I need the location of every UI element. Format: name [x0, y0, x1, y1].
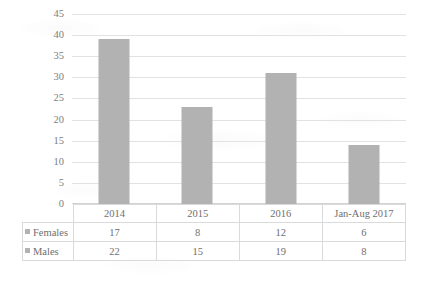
- table-header-row: 201420152016Jan-Aug 2017: [23, 205, 406, 223]
- bar-slot-2014: [72, 14, 156, 204]
- y-tick-label-10: 10: [24, 157, 64, 167]
- y-tick-label-15: 15: [24, 136, 64, 146]
- bar-2015: [182, 107, 213, 204]
- legend-item-females: Females: [23, 223, 74, 242]
- bar-slot-jan-aug-2017: [323, 14, 407, 204]
- table-cell-males-2016: 19: [239, 242, 322, 261]
- y-tick-label-25: 25: [24, 93, 64, 103]
- bar-series-total: [72, 14, 406, 204]
- table-column-header-2015: 2015: [156, 205, 239, 223]
- chart-data-table: 201420152016Jan-Aug 2017Females178126Mal…: [22, 204, 406, 261]
- table-row: Males2215198: [23, 242, 406, 261]
- table-cell-males-jan-aug-2017: 8: [322, 242, 405, 261]
- y-tick-label-20: 20: [24, 115, 64, 125]
- table-column-header-jan-aug-2017: Jan-Aug 2017: [322, 205, 405, 223]
- table-row: Females178126: [23, 223, 406, 242]
- bar-2016: [265, 73, 296, 204]
- table-cell-males-2015: 15: [156, 242, 239, 261]
- bar-slot-2016: [239, 14, 323, 204]
- legend-swatch-icon: [25, 229, 30, 234]
- table-cell-females-jan-aug-2017: 6: [322, 223, 405, 242]
- table-cell-males-2014: 22: [73, 242, 156, 261]
- bar-slot-2015: [156, 14, 240, 204]
- y-tick-label-35: 35: [24, 51, 64, 61]
- bar-jan-aug-2017: [349, 145, 380, 204]
- y-tick-label-5: 5: [24, 178, 64, 188]
- table-cell-females-2015: 8: [156, 223, 239, 242]
- table-cell-females-2016: 12: [239, 223, 322, 242]
- table-column-header-2016: 2016: [239, 205, 322, 223]
- legend-label: Males: [33, 243, 59, 260]
- table-cell-females-2014: 17: [73, 223, 156, 242]
- column-chart-with-data-table: 454035302520151050 201420152016Jan-Aug 2…: [0, 0, 428, 284]
- legend-swatch-icon: [25, 248, 30, 253]
- legend-label: Females: [33, 224, 68, 241]
- table-corner-cell: [23, 205, 74, 223]
- bar-2014: [98, 39, 129, 204]
- plot-area: [72, 14, 406, 204]
- table-column-header-2014: 2014: [73, 205, 156, 223]
- y-tick-label-45: 45: [24, 9, 64, 19]
- y-tick-label-30: 30: [24, 72, 64, 82]
- y-tick-label-40: 40: [24, 30, 64, 40]
- legend-item-males: Males: [23, 242, 74, 261]
